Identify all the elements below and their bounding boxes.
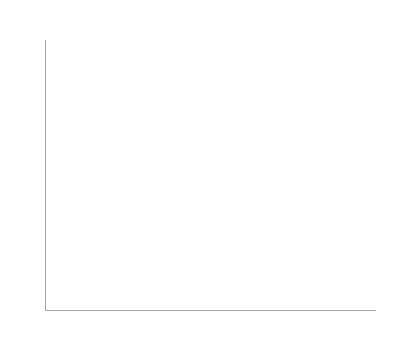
x-axis-line — [45, 310, 376, 311]
bar-chart — [0, 0, 411, 341]
y-axis-line — [45, 40, 46, 310]
